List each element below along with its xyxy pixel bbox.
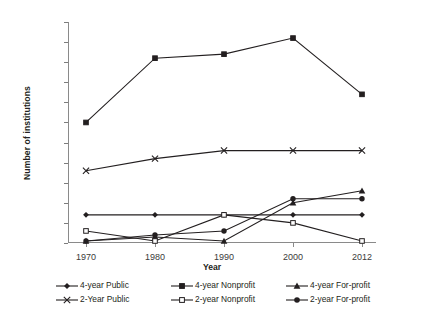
chart-legend: 4-year Public4-year Nonprofit4-year For-…: [56, 280, 386, 305]
x-axis-tick-label: 2012: [340, 252, 384, 262]
legend-item-label: 2-Year Public: [80, 294, 130, 305]
x-axis-title: Year: [0, 262, 424, 272]
legend-item-2-year-for-profit[interactable]: 2-year For-profit: [286, 294, 396, 305]
legend-item-label: 4-year For-profit: [310, 280, 370, 291]
y-axis-title: Number of institutions: [22, 48, 32, 218]
legend-item-label: 2-year For-profit: [310, 294, 370, 305]
cross-marker: [56, 295, 78, 305]
square-marker: [171, 281, 193, 291]
series-4-year-nonprofit: [84, 36, 365, 125]
series-2-year-public: [83, 147, 365, 173]
series-lines: [68, 22, 376, 243]
legend-item-label: 2-year Nonprofit: [195, 294, 255, 305]
legend-item-label: 4-year Nonprofit: [195, 280, 255, 291]
x-axis-tick: [293, 243, 294, 247]
legend-item-2-year-nonprofit[interactable]: 2-year Nonprofit: [171, 294, 286, 305]
triangle-marker: [286, 281, 308, 291]
x-axis-tick-label: 1990: [202, 252, 246, 262]
legend-item-2-year-public[interactable]: 2-Year Public: [56, 294, 171, 305]
legend-item-4-year-for-profit[interactable]: 4-year For-profit: [286, 280, 396, 291]
chart-figure: Number of institutions 05101520253035404…: [0, 0, 424, 321]
x-axis-tick-label: 1970: [64, 252, 108, 262]
open-square-marker: [171, 295, 193, 305]
x-axis-tick-label: 1980: [133, 252, 177, 262]
diamond-marker: [56, 281, 78, 291]
plot-area: 0510152025303540455055 19701980199020002…: [68, 22, 376, 243]
circle-marker: [286, 295, 308, 305]
x-axis-tick-label: 2000: [271, 252, 315, 262]
y-axis-tick: [64, 243, 68, 244]
legend-item-4-year-nonprofit[interactable]: 4-year Nonprofit: [171, 280, 286, 291]
legend-item-4-year-public[interactable]: 4-year Public: [56, 280, 171, 291]
legend-item-label: 4-year Public: [80, 280, 129, 291]
